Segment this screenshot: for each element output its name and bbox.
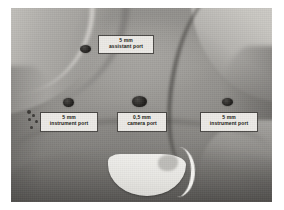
port-name-text: instrument port	[203, 120, 255, 126]
port-name-text: camera port	[120, 120, 164, 126]
port-label-camera-port: 0,5 mmcamera port	[117, 112, 167, 132]
port-name-text: instrument port	[43, 120, 95, 126]
port-label-left-instrument-port: 5 mminstrument port	[40, 112, 98, 132]
figure-root: 5 mmassistant port5 mminstrument port0,5…	[0, 0, 284, 210]
port-label-right-instrument-port: 5 mminstrument port	[200, 112, 258, 132]
port-dot-left-instrument-port	[63, 98, 74, 107]
skin-mark-3	[28, 118, 31, 121]
port-dot-assistant-port	[80, 45, 91, 53]
clinical-photograph: 5 mmassistant port5 mminstrument port0,5…	[11, 8, 272, 202]
port-dot-camera-port	[132, 96, 147, 107]
skin-mark-2	[32, 114, 35, 117]
skin-mark-5	[30, 126, 33, 129]
port-dot-right-instrument-port	[222, 98, 233, 106]
port-name-text: assistant port	[101, 43, 151, 49]
skin-mark-1	[27, 110, 31, 114]
skin-mark-4	[35, 120, 38, 123]
port-label-assistant-port: 5 mmassistant port	[98, 35, 154, 54]
